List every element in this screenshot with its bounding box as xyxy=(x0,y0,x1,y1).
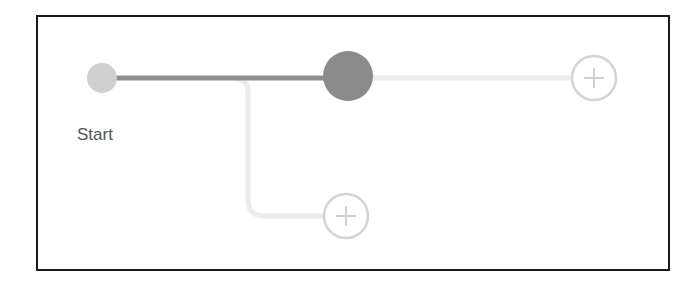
step-node[interactable] xyxy=(323,51,373,101)
start-node[interactable] xyxy=(87,63,117,93)
start-label: Start xyxy=(77,125,113,145)
add-step-button-right[interactable] xyxy=(572,56,616,100)
add-branch-button[interactable] xyxy=(324,194,368,238)
branch-edge xyxy=(236,79,324,216)
